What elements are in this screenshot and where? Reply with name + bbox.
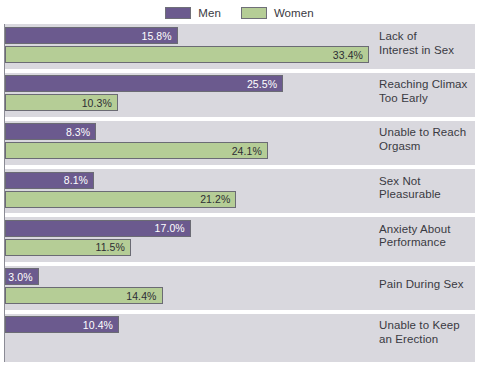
chart-group: 15.8%33.4%Lack ofInterest in Sex: [5, 25, 475, 69]
chart-group-bars: 15.8%33.4%: [5, 25, 376, 69]
category-label-line: an Erection: [379, 333, 479, 347]
chart-group: 8.1%21.2%Sex NotPleasurable: [5, 170, 475, 214]
category-label-line: Lack of: [379, 30, 479, 44]
legend-label-men: Men: [198, 7, 221, 19]
bar-women: 11.5%: [5, 239, 131, 256]
bar-men: 3.0%: [5, 268, 39, 285]
bar-value-label: 17.0%: [155, 222, 190, 234]
chart-group: 3.0%14.4%Pain During Sex: [5, 266, 475, 310]
chart-group: 10.4%Unable to Keepan Erection: [5, 314, 475, 358]
category-label-line: Reaching Climax: [379, 78, 479, 92]
bar-men: 15.8%: [5, 27, 178, 44]
bar-value-label: 14.4%: [126, 290, 161, 302]
bar-women: 33.4%: [5, 46, 369, 63]
category-label-line: Sex Not: [379, 175, 479, 189]
category-label: Pain During Sex: [379, 278, 479, 292]
category-label: Anxiety AboutPerformance: [379, 223, 479, 250]
group-separator: [5, 117, 475, 121]
category-label-line: Interest in Sex: [379, 44, 479, 58]
bar-women: 10.3%: [5, 94, 118, 111]
category-label-line: Too Early: [379, 92, 479, 106]
category-label: Sex NotPleasurable: [379, 175, 479, 202]
chart-group: 8.3%24.1%Unable to ReachOrgasm: [5, 121, 475, 165]
bar-women: 24.1%: [5, 142, 268, 159]
category-label-line: Performance: [379, 236, 479, 250]
chart-group-bars: 8.3%24.1%: [5, 121, 376, 165]
chart-group-bars: 17.0%11.5%: [5, 218, 376, 262]
legend-label-women: Women: [274, 7, 314, 19]
legend-swatch-women-icon: [241, 7, 267, 19]
bar-value-label: 8.1%: [64, 174, 93, 186]
bar-men: 17.0%: [5, 220, 191, 237]
bar-value-label: 24.1%: [232, 145, 267, 157]
bar-value-label: 15.8%: [141, 30, 176, 42]
bar-men: 10.4%: [5, 316, 119, 333]
category-label: Unable to ReachOrgasm: [379, 126, 479, 153]
chart-group-bars: 3.0%14.4%: [5, 266, 376, 310]
category-label-line: Orgasm: [379, 140, 479, 154]
legend-entry-men: Men: [165, 7, 221, 19]
group-separator: [5, 262, 475, 266]
bar-value-label: 8.3%: [66, 126, 95, 138]
bar-value-label: 10.3%: [82, 97, 117, 109]
chart-group-bars: 10.4%: [5, 314, 376, 358]
group-separator: [5, 69, 475, 73]
category-label-line: Pleasurable: [379, 188, 479, 202]
chart-group-bars: 25.5%10.3%: [5, 73, 376, 117]
bar-women: 14.4%: [5, 287, 163, 304]
category-label: Unable to Keepan Erection: [379, 319, 479, 346]
category-label-line: Unable to Keep: [379, 319, 479, 333]
bar-value-label: 3.0%: [8, 271, 37, 283]
chart-group: 17.0%11.5%Anxiety AboutPerformance: [5, 218, 475, 262]
category-label-line: Unable to Reach: [379, 126, 479, 140]
chart-plot-area: 15.8%33.4%Lack ofInterest in Sex25.5%10.…: [4, 24, 475, 362]
bar-women: 21.2%: [5, 191, 236, 208]
chart-group-bars: 8.1%21.2%: [5, 170, 376, 214]
bar-value-label: 33.4%: [333, 49, 368, 61]
category-label: Reaching ClimaxToo Early: [379, 78, 479, 105]
legend-entry-women: Women: [241, 7, 314, 19]
group-separator: [5, 310, 475, 314]
bar-men: 8.1%: [5, 172, 94, 189]
bar-chart: Men Women 15.8%33.4%Lack ofInterest in S…: [0, 0, 479, 365]
chart-legend: Men Women: [0, 2, 479, 24]
category-label: Lack ofInterest in Sex: [379, 30, 479, 57]
group-separator: [5, 165, 475, 169]
bar-value-label: 11.5%: [96, 241, 131, 253]
bar-value-label: 25.5%: [247, 78, 282, 90]
bar-value-label: 10.4%: [83, 319, 118, 331]
group-separator: [5, 213, 475, 217]
bar-men: 25.5%: [5, 75, 283, 92]
category-label-line: Anxiety About: [379, 223, 479, 237]
legend-swatch-men-icon: [165, 7, 191, 19]
bar-men: 8.3%: [5, 123, 96, 140]
chart-group: 25.5%10.3%Reaching ClimaxToo Early: [5, 73, 475, 117]
bar-value-label: 21.2%: [200, 193, 235, 205]
category-label-line: Pain During Sex: [379, 278, 479, 292]
